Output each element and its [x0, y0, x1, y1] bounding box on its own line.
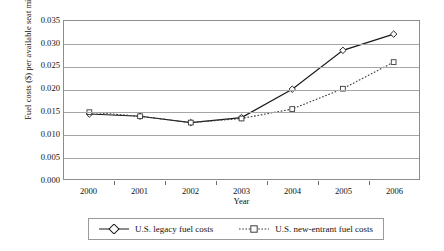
series-line-1: [89, 34, 393, 122]
x-tick-mark: [114, 181, 115, 185]
x-tick-mark: [165, 181, 166, 185]
legend-marker-dotted-square-icon: [239, 224, 269, 234]
x-tick-label: 2005: [319, 186, 369, 196]
gridline: [64, 90, 419, 91]
data-point-marker: [239, 116, 244, 121]
legend-label-legacy: U.S. legacy fuel costs: [135, 224, 213, 234]
gridline: [64, 112, 419, 113]
gridline: [64, 135, 419, 136]
legend-item-new-entrant: U.S. new-entrant fuel costs: [239, 224, 373, 234]
y-tick-label: 0.025: [22, 61, 60, 70]
x-tick-label: 2002: [166, 186, 216, 196]
chart-legend: U.S. legacy fuel costs U.S. new-entrant …: [88, 218, 384, 240]
x-tick-mark: [216, 181, 217, 185]
gridline: [64, 67, 419, 68]
y-tick-label: 0.005: [22, 153, 60, 162]
gridline: [64, 158, 419, 159]
legend-marker-solid-diamond-icon: [99, 224, 129, 234]
data-point-marker: [390, 31, 396, 37]
legend-label-new-entrant: U.S. new-entrant fuel costs: [275, 224, 373, 234]
series-line-2: [89, 62, 393, 122]
y-tick-label: 0.015: [22, 107, 60, 116]
y-axis-tick-labels: 0.0000.0050.0100.0150.0200.0250.0300.035: [20, 0, 60, 251]
plot-area: [63, 20, 420, 180]
y-tick-label: 0.020: [22, 84, 60, 93]
x-tick-label: 2004: [268, 186, 318, 196]
x-tick-mark: [369, 181, 370, 185]
data-point-marker: [391, 60, 396, 65]
x-tick-label: 2006: [370, 186, 420, 196]
fuel-costs-line-chart: Fuel costs ($) per available seat mile 0…: [0, 0, 444, 251]
legend-item-legacy: U.S. legacy fuel costs: [99, 224, 213, 234]
data-point-marker: [138, 114, 143, 119]
x-tick-mark: [318, 181, 319, 185]
data-point-marker: [290, 107, 295, 112]
y-tick-label: 0.030: [22, 39, 60, 48]
x-tick-label: 2003: [217, 186, 267, 196]
x-tick-mark: [267, 181, 268, 185]
data-point-marker: [188, 120, 193, 125]
gridline: [64, 44, 419, 45]
x-axis-title: Year: [63, 196, 420, 206]
y-tick-label: 0.035: [22, 16, 60, 25]
y-tick-label: 0.010: [22, 130, 60, 139]
x-tick-label: 2001: [115, 186, 165, 196]
y-tick-label: 0.000: [22, 176, 60, 185]
x-tick-label: 2000: [64, 186, 114, 196]
